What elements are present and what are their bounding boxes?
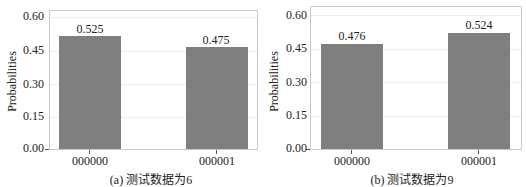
y-tick-label: 0.45 xyxy=(273,41,307,56)
bar-value-label: 0.476 xyxy=(322,29,382,44)
chart-caption: (a) 测试数据为6 xyxy=(51,170,251,187)
y-tick-label: 0.60 xyxy=(273,8,307,23)
y-tick-label: 0.15 xyxy=(10,109,44,124)
x-tick-label: 000000 xyxy=(55,154,125,169)
plot-area: 0.476 0.524 xyxy=(310,6,522,150)
y-tick-label: 0.30 xyxy=(10,77,44,92)
bar-value-label: 0.475 xyxy=(186,33,246,48)
x-tick-label: 000000 xyxy=(317,154,387,169)
gridline xyxy=(50,17,257,18)
y-tick-label: 0.45 xyxy=(10,43,44,58)
plot-area: 0.525 0.475 xyxy=(49,10,258,150)
y-tick-label: 0.00 xyxy=(273,141,307,156)
y-tick-label: 0.30 xyxy=(273,75,307,90)
y-tick-label: 0.00 xyxy=(10,141,44,156)
y-tick-label: 0.60 xyxy=(10,9,44,24)
bar-000000 xyxy=(321,44,383,149)
bar-value-label: 0.524 xyxy=(449,18,509,33)
y-tick-mark xyxy=(306,149,310,150)
chart-panel-b: Probabilities 0.60 0.45 0.30 0.15 0.00 0… xyxy=(263,0,526,187)
bar-000001 xyxy=(186,47,248,149)
y-tick-mark xyxy=(45,149,49,150)
x-tick-label: 000001 xyxy=(444,154,514,169)
gridline xyxy=(311,15,521,16)
x-tick-label: 000001 xyxy=(182,154,252,169)
bar-000000 xyxy=(59,36,121,149)
bar-000001 xyxy=(448,33,510,149)
y-tick-label: 0.15 xyxy=(273,108,307,123)
chart-panel-a: Probabilities 0.60 0.45 0.30 0.15 0.00 0… xyxy=(0,0,263,187)
bar-value-label: 0.525 xyxy=(60,22,120,37)
chart-caption: (b) 测试数据为9 xyxy=(312,170,512,187)
